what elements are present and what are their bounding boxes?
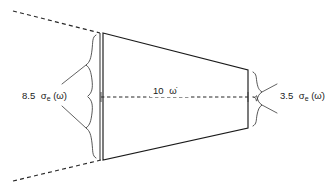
right-dimension-label: 3.5 σe(ω̇): [280, 90, 325, 102]
frustum-diagram: 8.5 σe(ω̇) 3.5 σe(ω̇) 10 ω̇: [0, 0, 335, 190]
right-leader-upper: [262, 84, 277, 92]
left-leader-lower: [62, 106, 86, 128]
figure-container: 8.5 σe(ω̇) 3.5 σe(ω̇) 10 ω̇: [0, 0, 335, 190]
left-dimension-subscript: e: [47, 95, 51, 102]
axis-dimension-symbol: ω̇: [169, 85, 177, 96]
right-brace-lower: [253, 96, 262, 126]
left-leader-upper: [62, 65, 86, 84]
left-dimension-value: 8.5: [22, 90, 35, 101]
left-brace-lower: [86, 97, 96, 158]
right-dimension-argument: (ω̇): [311, 90, 325, 101]
left-dimension-label: 8.5 σe(ω̇): [22, 90, 67, 102]
dashed-ray-upper-left: [13, 11, 100, 33]
dashed-ray-lower-left: [13, 160, 101, 181]
left-dimension-argument: (ω̇): [53, 90, 67, 101]
right-brace-upper: [253, 72, 262, 101]
left-brace-upper: [86, 35, 96, 96]
right-dimension-subscript: e: [305, 95, 309, 102]
axis-dimension-value: 10: [153, 85, 164, 96]
axis-dimension-label: 10 ω̇: [153, 85, 178, 96]
right-leader-lower: [262, 105, 277, 113]
right-dimension-value: 3.5: [280, 90, 293, 101]
